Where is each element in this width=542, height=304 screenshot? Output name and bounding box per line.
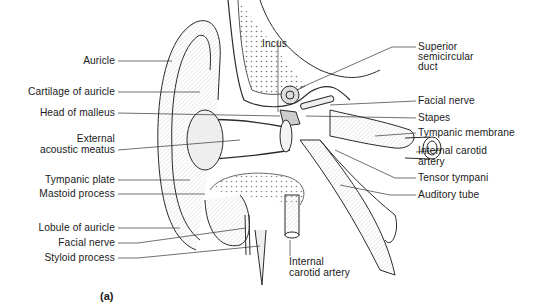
label-facial-nerve-right: Facial nerve xyxy=(418,95,475,106)
label-styloid-process: Styloid process xyxy=(44,252,115,263)
label-tympanic-membrane: Tympanic membrane xyxy=(418,127,515,138)
figure-caption: (a) xyxy=(100,290,113,302)
label-mastoid-process: Mastoid process xyxy=(39,188,115,199)
label-superior-semicircular-duct-line3: duct xyxy=(418,61,438,72)
label-facial-nerve-left: Facial nerve xyxy=(58,237,115,248)
styloid-process-shape xyxy=(255,230,266,285)
label-external-acoustic-meatus-line1: External xyxy=(77,133,115,144)
internal-carotid-artery-shape xyxy=(285,195,299,235)
ear-anatomy-figure: Auricle Cartilage of auricle Head of mal… xyxy=(0,0,542,304)
label-internal-carotid-artery-bottom-line1: Internal xyxy=(289,256,324,267)
label-incus: Incus xyxy=(262,38,287,49)
label-stapes: Stapes xyxy=(418,112,450,123)
label-auditory-tube: Auditory tube xyxy=(418,189,479,200)
label-lobule-of-auricle: Lobule of auricle xyxy=(39,222,115,233)
label-internal-carotid-artery-right-line2: artery xyxy=(418,156,445,167)
label-cartilage-of-auricle: Cartilage of auricle xyxy=(28,86,115,97)
label-head-of-malleus: Head of malleus xyxy=(40,107,115,118)
label-internal-carotid-artery-bottom-line2: carotid artery xyxy=(289,267,350,278)
label-internal-carotid-artery-right-line1: Internal carotid xyxy=(418,145,487,156)
auditory-tube-shape xyxy=(300,140,395,275)
label-auricle: Auricle xyxy=(83,55,115,66)
semicircular-duct-shape xyxy=(281,86,299,104)
label-external-acoustic-meatus-line2: acoustic meatus xyxy=(40,144,115,155)
label-tympanic-plate: Tympanic plate xyxy=(45,174,115,185)
label-tensor-tympani: Tensor tympani xyxy=(418,172,488,183)
